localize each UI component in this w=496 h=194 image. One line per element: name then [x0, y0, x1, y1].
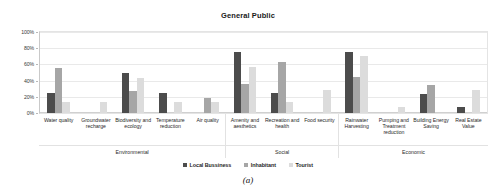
- y-axis-tick-label: 60%: [24, 61, 34, 67]
- x-axis-label: Pumping and Treatment reduction: [375, 115, 412, 145]
- bar: [398, 107, 406, 113]
- figure-caption: (a): [0, 175, 496, 185]
- bar: [211, 102, 219, 113]
- bar-groups: [40, 32, 487, 113]
- x-axis-label: Food security: [301, 115, 338, 145]
- bar: [47, 93, 55, 113]
- y-axis-tick-label: 100%: [21, 29, 34, 35]
- legend-item[interactable]: Tourist: [289, 162, 313, 168]
- bar: [360, 56, 368, 113]
- y-axis-tick-label: 40%: [24, 78, 34, 84]
- y-axis-tick-mark: [36, 81, 38, 82]
- bar-group: [40, 32, 77, 113]
- bar-group: [264, 32, 301, 113]
- x-axis-label: Rainwater Harvesting: [338, 115, 375, 145]
- bar: [472, 90, 480, 113]
- x-axis-label: Temperature reduction: [152, 115, 189, 145]
- bar-group: [413, 32, 450, 113]
- y-axis-tick-label: 20%: [24, 94, 34, 100]
- bar: [122, 73, 130, 114]
- y-axis-tick-mark: [36, 113, 38, 114]
- legend-label: Tourist: [296, 162, 314, 168]
- bar: [420, 94, 428, 113]
- bar: [129, 91, 137, 113]
- bar: [345, 52, 353, 113]
- bar: [159, 93, 167, 113]
- y-axis-tick-mark: [36, 64, 38, 65]
- bar: [286, 102, 294, 113]
- x-axis-label: Real Estate Value: [450, 115, 487, 145]
- bar: [174, 102, 182, 113]
- legend-label: Inhabitant: [251, 162, 276, 168]
- bar: [249, 67, 257, 113]
- legend-item[interactable]: Local Bussiness: [183, 162, 231, 168]
- bar: [241, 84, 249, 113]
- bar-group: [77, 32, 114, 113]
- bar: [278, 62, 286, 113]
- bar: [100, 102, 108, 113]
- category-label: Economic: [339, 146, 488, 158]
- x-axis-label: Building Energy Saving: [413, 115, 450, 145]
- x-axis-label: Amenity and aesthetics: [226, 115, 263, 145]
- bar: [62, 102, 70, 113]
- bar: [234, 52, 242, 113]
- bar: [323, 90, 331, 113]
- bar-group: [226, 32, 263, 113]
- bar-group: [152, 32, 189, 113]
- x-axis-labels: Water qualityGroundwater rechargeBiodive…: [40, 115, 487, 145]
- legend-swatch-icon: [183, 163, 187, 167]
- bar-group: [115, 32, 152, 113]
- legend-item[interactable]: Inhabitant: [244, 162, 276, 168]
- category-row: EnvironmentalSocialEconomic: [39, 145, 488, 158]
- bar: [137, 78, 145, 113]
- bar: [55, 68, 63, 113]
- x-axis-label: Groundwater recharge: [77, 115, 114, 145]
- bar-group: [450, 32, 487, 113]
- y-axis-tick-mark: [36, 97, 38, 98]
- bar: [271, 93, 279, 113]
- x-axis-label: Recreation and health: [264, 115, 301, 145]
- bar: [457, 107, 465, 113]
- bar-group: [338, 32, 375, 113]
- bar-group: [375, 32, 412, 113]
- bar-group: [301, 32, 338, 113]
- category-label: Social: [226, 146, 339, 158]
- chart-legend: Local BussinessInhabitantTourist: [0, 160, 496, 170]
- chart-title: General Public: [0, 11, 496, 20]
- figure-container: General Public 100%80%60%40%20%0% Water …: [0, 0, 496, 194]
- y-axis: 100%80%60%40%20%0%: [0, 27, 38, 119]
- category-label: Environmental: [39, 146, 226, 158]
- x-axis-label: Water quality: [40, 115, 77, 145]
- y-axis-tick-label: 0%: [27, 110, 34, 116]
- bar: [427, 85, 435, 113]
- x-axis-label: Biodiversity and ecology: [115, 115, 152, 145]
- legend-label: Local Bussiness: [189, 162, 231, 168]
- legend-swatch-icon: [289, 163, 293, 167]
- y-axis-tick-label: 80%: [24, 45, 34, 51]
- bar: [353, 77, 361, 113]
- y-axis-tick-mark: [36, 48, 38, 49]
- bar: [204, 98, 212, 113]
- bar-group: [189, 32, 226, 113]
- x-axis-label: Air quality: [189, 115, 226, 145]
- legend-swatch-icon: [244, 163, 248, 167]
- y-axis-tick-mark: [36, 32, 38, 33]
